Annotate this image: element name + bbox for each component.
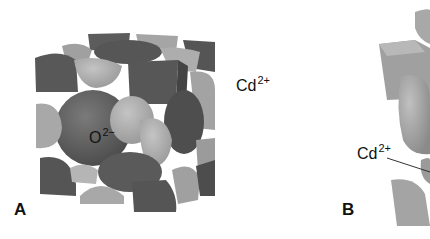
ion-symbol: Cd <box>357 145 377 162</box>
panel-label-a: A <box>14 200 26 220</box>
panel-a: O2− A <box>0 0 215 239</box>
panel-b: Cd2+ B <box>215 0 430 239</box>
panel-label-b: B <box>342 200 354 220</box>
oxide-ion-label: O2− <box>89 126 115 147</box>
ion-symbol: O <box>89 129 101 146</box>
partial-structure-illustration <box>215 0 430 239</box>
rock-salt-unit-cell-illustration <box>0 0 215 239</box>
ion-charge: 2− <box>102 126 115 138</box>
cadmium-ion-label-b: Cd2+ <box>357 142 391 163</box>
ion-charge: 2+ <box>378 142 391 154</box>
